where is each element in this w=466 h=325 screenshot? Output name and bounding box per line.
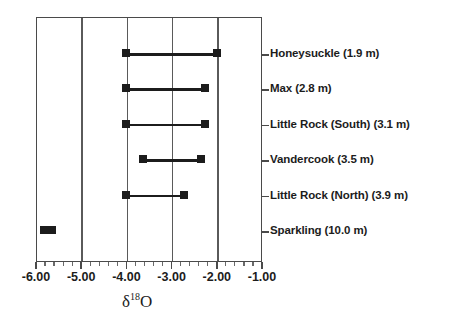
x-tick-minor <box>162 262 163 266</box>
x-axis-title: δ18O <box>122 292 152 312</box>
range-endpoint-min <box>139 155 147 163</box>
chart-figure: -6.00-5.00-4.00-3.00-2.00-1.00 Honeysuck… <box>0 0 466 325</box>
range-endpoint-max <box>201 120 209 128</box>
range-bar <box>126 88 204 91</box>
x-tick-minor <box>225 262 226 266</box>
range-bar-row <box>0 189 466 203</box>
x-tick-minor <box>117 262 118 266</box>
x-tick-minor <box>144 262 145 266</box>
range-endpoint-min <box>122 120 130 128</box>
x-tick-label: -6.00 <box>22 270 51 284</box>
x-tick-minor <box>99 262 100 266</box>
range-endpoint-max <box>180 191 188 199</box>
x-tick-minor <box>53 262 54 266</box>
range-endpoint-max <box>213 49 221 57</box>
range-bar-row <box>0 153 466 167</box>
range-endpoint-max <box>201 84 209 92</box>
x-tick-minor <box>180 262 181 266</box>
x-tick-minor <box>44 262 45 266</box>
range-endpoint-max <box>48 226 56 234</box>
x-tick-major <box>171 262 173 269</box>
x-tick-major <box>80 262 82 269</box>
range-endpoint-min <box>122 84 130 92</box>
x-tick-label: -5.00 <box>67 270 96 284</box>
x-tick-minor <box>108 262 109 266</box>
x-tick-label: -4.00 <box>112 270 141 284</box>
range-bar-row <box>0 82 466 96</box>
x-tick-minor <box>153 262 154 266</box>
x-tick-major <box>126 262 128 269</box>
x-tick-minor <box>198 262 199 266</box>
x-axis-title-delta: δ <box>122 292 130 311</box>
range-bar <box>126 124 204 127</box>
x-tick-minor <box>189 262 190 266</box>
x-tick-major <box>261 262 263 269</box>
range-bar <box>143 159 201 162</box>
x-tick-major <box>35 262 37 269</box>
x-tick-label: -2.00 <box>203 270 232 284</box>
x-tick-minor <box>72 262 73 266</box>
range-bar <box>126 53 216 56</box>
range-endpoint-min <box>40 226 48 234</box>
x-tick-minor <box>234 262 235 266</box>
x-tick-minor <box>252 262 253 266</box>
x-tick-label: -3.00 <box>157 270 186 284</box>
x-tick-minor <box>207 262 208 266</box>
x-axis-tick-marks <box>36 262 262 269</box>
range-bar-row <box>0 47 466 61</box>
range-endpoint-max <box>197 155 205 163</box>
x-tick-major <box>216 262 218 269</box>
x-tick-minor <box>243 262 244 266</box>
range-bar-row <box>0 118 466 132</box>
x-tick-minor <box>63 262 64 266</box>
x-tick-label: -1.00 <box>248 270 277 284</box>
range-bar-row <box>0 224 466 238</box>
x-tick-minor <box>90 262 91 266</box>
range-endpoint-min <box>122 191 130 199</box>
range-endpoint-min <box>122 49 130 57</box>
x-axis-title-element: O <box>140 292 152 311</box>
range-bar <box>126 195 183 198</box>
x-tick-minor <box>135 262 136 266</box>
x-axis-title-superscript: 18 <box>130 291 140 302</box>
